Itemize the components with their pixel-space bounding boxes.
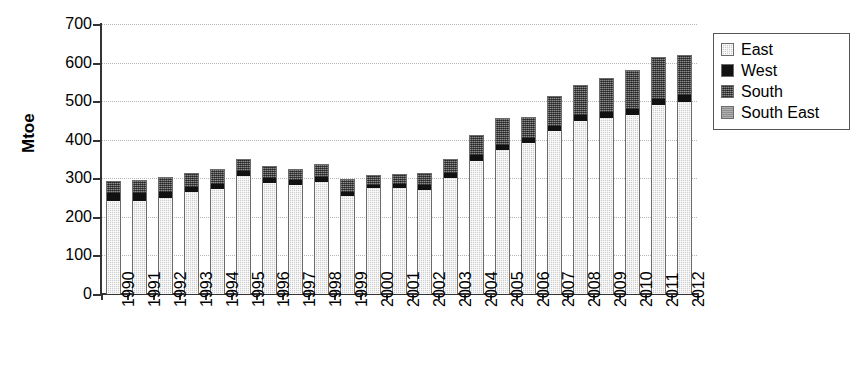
- legend-item-west: West: [721, 60, 843, 81]
- y-axis-tick-label: 300: [46, 170, 92, 186]
- x-axis-tick-label: 1994: [225, 249, 241, 307]
- x-axis-tick-label: 2003: [458, 249, 474, 307]
- bar-segment-west: [107, 193, 120, 201]
- x-axis-tick-label: 2006: [536, 249, 552, 307]
- bar-segment-south: [367, 176, 380, 184]
- x-axis-tick-label: 2004: [484, 249, 500, 307]
- y-axis-tick-label: 400: [46, 132, 92, 148]
- bar-segment-south: [444, 160, 457, 173]
- south-swatch: [721, 85, 734, 98]
- bar-segment-south: [211, 170, 224, 184]
- bar-segment-south: [263, 167, 276, 178]
- legend-item-south: South: [721, 81, 843, 102]
- x-axis-tick-label: 2010: [639, 249, 655, 307]
- bar-segment-south: [315, 165, 328, 176]
- x-axis-tick-label: 2005: [510, 249, 526, 307]
- legend-item-label: South: [741, 84, 783, 100]
- south-east-swatch: [721, 106, 734, 119]
- legend-item-label: South East: [741, 105, 819, 121]
- x-axis-tick-label: 1993: [199, 249, 215, 307]
- bar-segment-east: [107, 201, 120, 294]
- legend-item-east: East: [721, 39, 843, 60]
- bar-segment-south: [289, 170, 302, 180]
- bar-segment-west: [678, 95, 691, 102]
- x-axis-tick-label: 1991: [147, 249, 163, 307]
- bar-segment-south: [133, 181, 146, 193]
- x-axis-tick-label: 1992: [173, 249, 189, 307]
- bar-segment-south: [393, 175, 406, 184]
- bar-segment-south: [185, 174, 198, 187]
- west-swatch: [721, 64, 734, 77]
- x-axis-tick: [101, 293, 103, 300]
- x-axis-tick-label: 2009: [613, 249, 629, 307]
- bar-segment-south: [522, 118, 535, 138]
- y-axis-tick-label: 0: [46, 286, 92, 302]
- bar-segment-south: [678, 56, 691, 95]
- x-axis-tick-label: 2001: [406, 249, 422, 307]
- legend-item-label: West: [741, 63, 777, 79]
- bar-segment-south: [626, 71, 639, 109]
- x-axis-tick-label: 1998: [328, 249, 344, 307]
- bar-segment-south: [341, 180, 354, 192]
- legend-item-label: East: [741, 42, 773, 58]
- x-axis-tick-label: 1997: [302, 249, 318, 307]
- y-axis-tick-label: 200: [46, 209, 92, 225]
- x-axis-tick-label: 2012: [691, 249, 707, 307]
- bar-segment-south: [237, 160, 250, 171]
- x-axis-tick-label: 1995: [251, 249, 267, 307]
- plot-area: [101, 24, 697, 294]
- bar-segment-south: [496, 119, 509, 145]
- y-axis-tick-label: 600: [46, 55, 92, 71]
- y-axis-tick-label: 100: [46, 247, 92, 263]
- bar-segment-west: [133, 193, 146, 200]
- x-axis-tick-label: 2002: [432, 249, 448, 307]
- y-axis-tick-label: 700: [46, 16, 92, 32]
- bar-segment-south: [652, 58, 665, 99]
- bar-segment-south: [159, 178, 172, 192]
- x-axis-tick-label: 1999: [354, 249, 370, 307]
- x-axis-tick-label: 2007: [561, 249, 577, 307]
- x-axis-tick-label: 2011: [665, 249, 681, 307]
- bar-segment-south: [600, 79, 613, 112]
- x-axis-tick-label: 1990: [121, 249, 137, 307]
- bar-segment-south: [107, 182, 120, 194]
- legend-item-south-east: South East: [721, 102, 843, 123]
- bar-segment-south: [548, 97, 561, 126]
- x-axis-tick-label: 2000: [380, 249, 396, 307]
- x-axis-tick-label: 2008: [587, 249, 603, 307]
- legend: EastWestSouthSouth East: [713, 33, 850, 130]
- bar-segment-south: [470, 136, 483, 155]
- x-axis-tick-label: 1996: [276, 249, 292, 307]
- east-swatch: [721, 43, 734, 56]
- y-axis-tick-label: 500: [46, 93, 92, 109]
- stacked-bar-chart: Mtoe 0100200300400500600700 199019911992…: [0, 0, 865, 367]
- bar-segment-south: [418, 174, 431, 185]
- y-axis-title: Mtoe: [19, 123, 39, 153]
- bar-segment-south: [574, 86, 587, 116]
